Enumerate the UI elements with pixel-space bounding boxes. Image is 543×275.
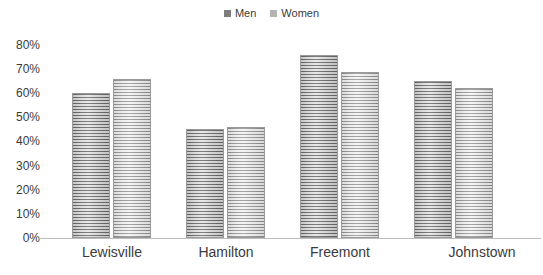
legend-item-men: Men — [224, 8, 256, 19]
y-tick-label: 30% — [0, 160, 40, 172]
y-tick-label: 50% — [0, 111, 40, 123]
plot-area — [44, 45, 541, 238]
bar-fill — [186, 129, 224, 238]
bar-fill — [414, 81, 452, 238]
y-tick-label: 20% — [0, 184, 40, 196]
bar-fill — [455, 88, 493, 238]
bar-freemont-women[interactable] — [341, 72, 379, 238]
bar-fill — [227, 127, 265, 238]
legend-label-men: Men — [235, 8, 256, 19]
bar-hamilton-men[interactable] — [186, 129, 224, 238]
bar-lewisville-women[interactable] — [113, 79, 151, 238]
category-label-freemont: Freemont — [290, 244, 390, 260]
category-label-johnstown: Johnstown — [432, 244, 532, 260]
bar-hamilton-women[interactable] — [227, 127, 265, 238]
y-tick-label: 80% — [0, 39, 40, 51]
bar-lewisville-men[interactable] — [72, 93, 110, 238]
bar-freemont-men[interactable] — [300, 55, 338, 238]
chart-legend: Men Women — [0, 5, 543, 21]
legend-item-women: Women — [270, 8, 319, 19]
y-tick-label: 10% — [0, 208, 40, 220]
bar-johnstown-women[interactable] — [455, 88, 493, 238]
y-tick-label: 70% — [0, 63, 40, 75]
bar-johnstown-men[interactable] — [414, 81, 452, 238]
y-tick-label: 40% — [0, 135, 40, 147]
y-tick-label: 0% — [0, 232, 40, 244]
x-axis-line — [38, 238, 541, 239]
legend-swatch-men-icon — [224, 10, 231, 17]
bar-fill — [341, 72, 379, 238]
category-label-hamilton: Hamilton — [176, 244, 276, 260]
bar-fill — [113, 79, 151, 238]
bar-fill — [300, 55, 338, 238]
bar-chart: Men Women 80% 70% 60% 50% 40% 30% 20% 10… — [0, 0, 543, 275]
y-tick-label: 60% — [0, 87, 40, 99]
y-axis: 80% 70% 60% 50% 40% 30% 20% 10% 0% — [0, 0, 40, 275]
bar-fill — [72, 93, 110, 238]
category-label-lewisville: Lewisville — [62, 244, 162, 260]
legend-swatch-women-icon — [270, 10, 277, 17]
legend-label-women: Women — [281, 8, 319, 19]
